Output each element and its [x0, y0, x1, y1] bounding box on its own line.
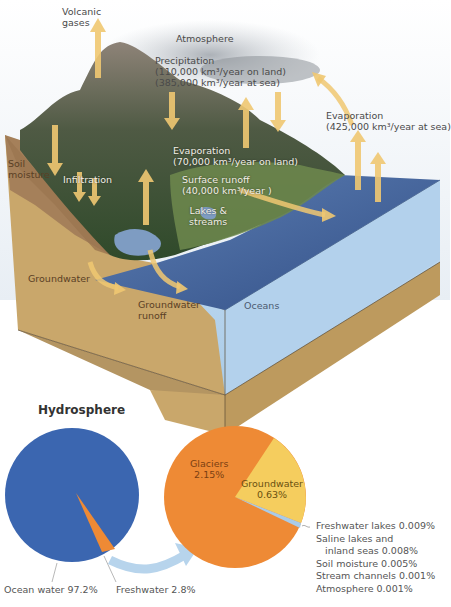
- pie-slice-other-freshwater: [235, 497, 301, 528]
- legend-saline-lakes-value: inland seas 0.008%: [316, 545, 435, 558]
- label-oceans: Oceans: [244, 300, 279, 311]
- label-glaciers: Glaciers 2.15%: [190, 458, 228, 480]
- label-precipitation: Precipitation (110,000 km³/year on land)…: [155, 55, 286, 88]
- label-line: (40,000 km³/year ): [182, 185, 272, 196]
- label-line: Precipitation: [155, 55, 286, 66]
- label-line: Lakes &: [189, 205, 227, 216]
- label-atmosphere: Atmosphere: [176, 33, 234, 44]
- label-line: Evaporation: [326, 110, 451, 121]
- label-line: Groundwater: [241, 478, 303, 489]
- label-line: 0.63%: [241, 489, 303, 500]
- label-soil-moisture: Soil moisture: [8, 158, 50, 180]
- legend-saline-lakes: Saline lakes and: [316, 533, 435, 546]
- label-line: (425,000 km³/year at sea): [326, 121, 451, 132]
- label-line: Glaciers: [190, 458, 228, 469]
- legend-stream-channels: Stream channels 0.001%: [316, 570, 435, 583]
- label-freshwater: Freshwater 2.8%: [116, 584, 196, 595]
- pie-slice-ocean-water: [5, 428, 139, 562]
- label-volcanic-gases: Volcanic gases: [62, 6, 101, 28]
- label-evaporation-land: Evaporation (70,000 km³/year on land): [173, 145, 298, 167]
- label-groundwater-runoff: Groundwater runoff: [138, 299, 200, 321]
- label-line: Surface runoff: [182, 174, 272, 185]
- label-line: 2.15%: [190, 469, 228, 480]
- label-line: (385,000 km³/year at sea): [155, 77, 286, 88]
- legend-atmosphere: Atmosphere 0.001%: [316, 583, 435, 596]
- label-line: runoff: [138, 310, 200, 321]
- label-line: gases: [62, 17, 101, 28]
- label-ocean-water: Ocean water 97.2%: [4, 584, 98, 595]
- label-line: moisture: [8, 169, 50, 180]
- label-evaporation-sea: Evaporation (425,000 km³/year at sea): [326, 110, 451, 132]
- label-line: Evaporation: [173, 145, 298, 156]
- label-infiltration: Infiltration: [63, 174, 112, 185]
- label-groundwater-share: Groundwater 0.63%: [241, 478, 303, 500]
- label-line: Groundwater: [138, 299, 200, 310]
- label-line: Soil: [8, 158, 50, 169]
- label-lakes-streams: Lakes & streams: [189, 205, 227, 227]
- pie-slice-freshwater: [76, 493, 115, 552]
- freshwater-minor-legend: Freshwater lakes 0.009% Saline lakes and…: [316, 520, 435, 595]
- label-line: Volcanic: [62, 6, 101, 17]
- label-line: (110,000 km³/year on land): [155, 66, 286, 77]
- legend-soil-moisture: Soil moisture 0.005%: [316, 558, 435, 571]
- label-line: (70,000 km³/year on land): [173, 156, 298, 167]
- hydrosphere-title: Hydrosphere: [38, 403, 125, 417]
- label-surface-runoff: Surface runoff (40,000 km³/year ): [182, 174, 272, 196]
- label-groundwater: Groundwater: [28, 273, 90, 284]
- legend-freshwater-lakes: Freshwater lakes 0.009%: [316, 520, 435, 533]
- label-line: streams: [189, 216, 227, 227]
